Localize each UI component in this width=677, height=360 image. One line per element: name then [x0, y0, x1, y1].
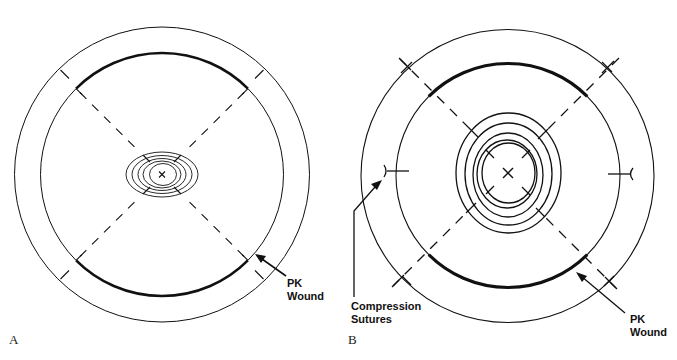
- panel-a-diagram: [15, 27, 310, 322]
- panel-a-letter: A: [9, 332, 18, 348]
- panel-b-pk-wound-label: PK Wound: [630, 313, 667, 338]
- panel-b-wound-arc-top: [429, 63, 587, 96]
- panel-a-wound-arc-top: [76, 53, 248, 89]
- panel-b-pk-arrow: [581, 276, 625, 313]
- pk-label-line1: PK: [287, 277, 324, 290]
- panel-a-diagonal-ne: [187, 93, 244, 150]
- sutures-label-line2: Sutures: [351, 313, 421, 326]
- panel-a-pk-wound-label: PK Wound: [287, 277, 324, 302]
- pk-label-line2: Wound: [287, 290, 324, 303]
- figure-canvas: [0, 0, 677, 360]
- pk-label-line1: PK: [630, 313, 667, 326]
- pk-label-line2: Wound: [630, 326, 667, 339]
- arrowhead-icon: [255, 254, 266, 263]
- panel-b-diagram: [354, 30, 654, 323]
- panel-a-diagonal-sw: [80, 200, 137, 257]
- panel-a-diagonal-nw: [80, 93, 137, 150]
- panel-b-wound-arc-bottom: [429, 255, 587, 288]
- panel-a-pk-arrow: [262, 259, 286, 276]
- panel-b-compression-sutures-label: Compression Sutures: [351, 300, 421, 325]
- panel-b-letter: B: [348, 332, 357, 348]
- panel-a-wound-arc-bottom: [76, 260, 248, 296]
- arrowhead-icon: [371, 180, 382, 190]
- panel-b-inner-circle: [396, 64, 620, 288]
- panel-b-sutures-pointer: [354, 187, 375, 297]
- panel-b-center-mark: [503, 168, 513, 178]
- panel-a-diagonal-se: [187, 200, 244, 257]
- sutures-label-line1: Compression: [351, 300, 421, 313]
- panel-a-center-mark: [159, 172, 165, 178]
